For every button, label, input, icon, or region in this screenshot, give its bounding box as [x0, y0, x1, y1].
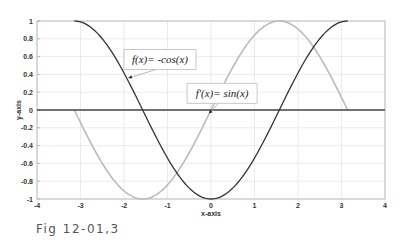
- x-tick-label: 1: [253, 202, 257, 209]
- x-tick-label: -2: [121, 202, 127, 209]
- y-tick-label: -0.8: [21, 178, 33, 185]
- y-tick-label: -0.6: [21, 160, 33, 167]
- x-tick-label: -3: [77, 202, 83, 209]
- figure-caption: Fig 12-01,3: [36, 222, 120, 236]
- y-tick-label: 1: [29, 18, 33, 25]
- line-chart: -1-0.8-0.6-0.4-0.200.20.40.60.81 -4-3-2-…: [0, 0, 400, 251]
- x-tick-label: 0: [209, 202, 213, 209]
- y-tick-label: -0.2: [21, 124, 33, 131]
- x-tick-label: 2: [296, 202, 300, 209]
- y-tick-label: 0.8: [23, 35, 33, 42]
- annotation-text: f(x)= -cos(x): [132, 53, 188, 66]
- y-tick-label: 0.4: [23, 71, 33, 78]
- y-tick-label: -1: [27, 196, 33, 203]
- y-tick-label: 0: [29, 107, 33, 114]
- y-tick-label: 0.6: [23, 53, 33, 60]
- y-tick-label: 0.2: [23, 89, 33, 96]
- x-axis-label: x-axis: [201, 210, 221, 217]
- annotation-text: f'(x)= sin(x): [196, 87, 249, 100]
- x-tick-labels: -4-3-2-101234: [34, 202, 387, 209]
- y-axis-label: y-axis: [15, 100, 23, 120]
- y-tick-label: -0.4: [21, 142, 33, 149]
- x-tick-label: 3: [340, 202, 344, 209]
- x-tick-label: 4: [383, 202, 387, 209]
- x-tick-label: -4: [34, 202, 40, 209]
- x-tick-label: -1: [164, 202, 170, 209]
